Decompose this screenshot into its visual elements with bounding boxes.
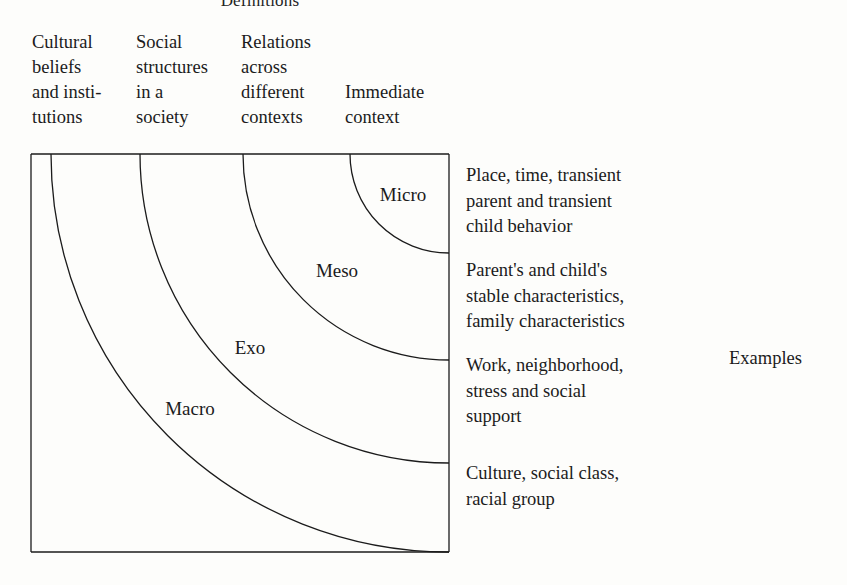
example-line: Culture, social class, xyxy=(466,461,706,487)
example-block-meso: Parent's and child'sstable characteristi… xyxy=(466,258,706,335)
example-block-micro: Place, time, transientparent and transie… xyxy=(466,163,706,240)
example-line: stress and social xyxy=(466,379,706,405)
example-line: family characteristics xyxy=(466,309,706,335)
example-block-exo: Work, neighborhood,stress and socialsupp… xyxy=(466,353,706,430)
ring-label-macro: Macro xyxy=(165,399,215,418)
ring-label-meso: Meso xyxy=(316,261,358,280)
ecological-systems-figure xyxy=(0,0,847,585)
example-line: racial group xyxy=(466,487,706,513)
example-line: child behavior xyxy=(466,214,706,240)
example-block-macro: Culture, social class,racial group xyxy=(466,461,706,512)
example-line: Place, time, transient xyxy=(466,163,706,189)
arc-canvas xyxy=(0,0,847,585)
example-line: support xyxy=(466,404,706,430)
examples-caption: Examples xyxy=(729,348,802,369)
ring-label-micro: Micro xyxy=(380,185,426,204)
example-line: stable characteristics, xyxy=(466,284,706,310)
example-line: Parent's and child's xyxy=(466,258,706,284)
ring-label-exo: Exo xyxy=(235,338,266,357)
example-line: Work, neighborhood, xyxy=(466,353,706,379)
diagram-page: Definitions Culturalbeliefsand insti-tut… xyxy=(0,0,847,585)
example-line: parent and transient xyxy=(466,189,706,215)
